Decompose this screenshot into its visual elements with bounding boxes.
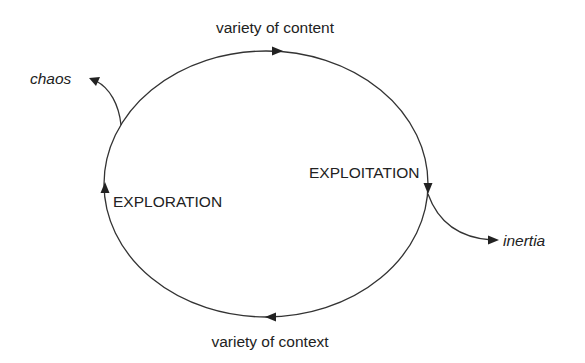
top-arrow-icon — [272, 47, 283, 56]
cycle-ellipse — [104, 51, 428, 317]
cycle-diagram: variety of content variety of context EX… — [0, 0, 585, 363]
chaos-arrow-icon — [89, 77, 100, 86]
label-chaos: chaos — [30, 70, 72, 87]
label-exploitation: EXPLOITATION — [309, 164, 420, 181]
bottom-arrow-icon — [265, 313, 276, 322]
inertia-branch — [428, 194, 492, 240]
label-inertia: inertia — [503, 232, 546, 249]
left-arrow-icon — [101, 182, 110, 193]
inertia-arrow-icon — [488, 236, 499, 245]
label-variety-of-context: variety of context — [211, 333, 329, 350]
chaos-branch — [96, 81, 121, 125]
right-arrow-icon — [424, 183, 433, 194]
label-exploration: EXPLORATION — [113, 193, 222, 210]
label-variety-of-content: variety of content — [216, 19, 335, 36]
